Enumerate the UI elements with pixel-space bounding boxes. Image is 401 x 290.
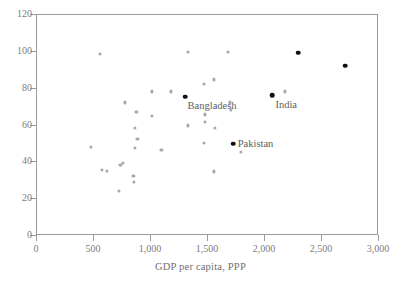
- y-tick-label: 0: [4, 230, 32, 240]
- data-point-highlighted: [343, 63, 348, 68]
- x-tick: [36, 235, 37, 241]
- x-tick: [321, 235, 322, 241]
- data-point-highlighted: [183, 95, 188, 100]
- x-tick-label: 2,500: [299, 243, 343, 254]
- scatter-chart: 020406080100120 05001,0001,5002,0002,500…: [0, 0, 401, 290]
- x-axis-title: GDP per capita, PPP: [0, 261, 401, 272]
- x-tick: [264, 235, 265, 241]
- y-tick-label: 40: [4, 156, 32, 166]
- data-point-highlighted: [231, 142, 236, 147]
- point-annotation-label: Pakistan: [238, 138, 274, 149]
- x-tick-label: 1,000: [128, 243, 172, 254]
- x-tick: [207, 235, 208, 241]
- y-tick-label: 60: [4, 120, 32, 130]
- x-tick: [150, 235, 151, 241]
- point-annotation-label: India: [275, 99, 297, 110]
- point-annotation-label: Bangladesh: [188, 100, 237, 111]
- data-point-highlighted: [270, 93, 275, 98]
- x-tick-label: 1,500: [185, 243, 229, 254]
- x-tick-label: 500: [71, 243, 115, 254]
- plot-frame: [36, 14, 378, 235]
- x-tick: [378, 235, 379, 241]
- x-tick-label: 3,000: [356, 243, 400, 254]
- x-tick: [93, 235, 94, 241]
- y-tick-label: 80: [4, 83, 32, 93]
- x-tick-label: 2,000: [242, 243, 286, 254]
- y-tick-label: 100: [4, 46, 32, 56]
- y-tick-label: 120: [4, 9, 32, 19]
- x-tick-label: 0: [14, 243, 58, 254]
- data-point-highlighted: [296, 50, 301, 55]
- y-tick-label: 20: [4, 193, 32, 203]
